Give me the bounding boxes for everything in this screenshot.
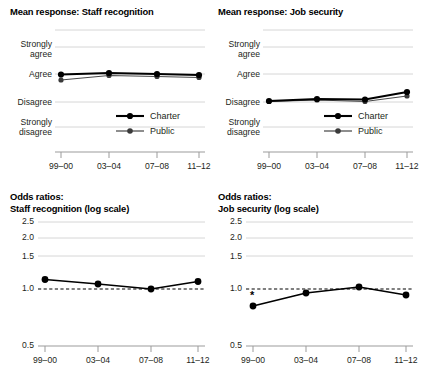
series-line-odds-ratio: [253, 287, 406, 306]
data-point-odds-ratio-0: [250, 303, 257, 310]
y-tick-label-strongly-agree: Strongly agree: [210, 40, 260, 59]
x-tick-label-0: 99–00: [25, 355, 65, 365]
legend-marker-charter: [335, 113, 341, 119]
x-tick-label-1: 03–04: [89, 161, 129, 171]
legend-label-charter: Charter: [358, 111, 388, 121]
y-tick-label-2-5: 2.5: [6, 217, 34, 227]
y-tick-label-2-0: 2.0: [6, 233, 34, 243]
y-tick-label-2-5: 2.5: [214, 217, 242, 227]
data-point-odds-ratio-1: [303, 290, 310, 297]
plot-area: [38, 186, 205, 358]
y-tick-label-1-5: 1.5: [6, 252, 34, 262]
y-tick-label-1-0: 1.0: [6, 284, 34, 294]
y-tick-label-agree: Agree: [2, 70, 52, 80]
x-tick-label-1: 03–04: [286, 355, 326, 365]
y-tick-label-strongly-disagree: Strongly disagree: [210, 118, 260, 137]
x-tick-label-2: 07–08: [131, 355, 171, 365]
x-tick-label-1: 03–04: [297, 161, 337, 171]
y-tick-label-0-5: 0.5: [6, 341, 34, 351]
data-point-charter-1: [106, 70, 112, 76]
y-tick-label-1-5: 1.5: [214, 252, 242, 262]
panel-odds-ratios-staff-recognition: Odds ratios: Staff recognition (log scal…: [0, 186, 208, 372]
legend-marker-public: [335, 128, 341, 134]
data-point-odds-ratio-0: [42, 276, 49, 283]
legend-label-public: Public: [150, 126, 175, 136]
y-tick-label-1-0: 1.0: [214, 284, 242, 294]
x-tick-label-3: 11–12: [387, 161, 423, 171]
data-point-charter-3: [196, 72, 202, 78]
series-line-odds-ratio: [45, 280, 198, 290]
series-line-public: [61, 76, 199, 81]
x-tick-label-1: 03–04: [78, 355, 118, 365]
legend-marker-charter: [127, 113, 133, 119]
x-tick-label-0: 99–00: [233, 355, 273, 365]
x-tick-label-0: 99–00: [41, 161, 81, 171]
legend: [116, 113, 144, 134]
panel-odds-ratios-job-security: Odds ratios: Job security (log scale) 2.…: [208, 186, 417, 372]
data-point-charter-3: [404, 89, 410, 95]
x-tick-label-3: 11–12: [386, 355, 423, 365]
y-tick-label-strongly-agree: Strongly agree: [2, 40, 52, 59]
data-point-charter-1: [314, 96, 320, 102]
x-tick-label-0: 99–00: [249, 161, 289, 171]
x-tick-label-2: 07–08: [137, 161, 177, 171]
series-line-charter: [269, 92, 407, 101]
y-tick-label-agree: Agree: [210, 70, 260, 80]
data-point-odds-ratio-2: [356, 284, 363, 291]
plot-area: [263, 0, 413, 160]
panel-mean-response-job-security: Mean response: Job security Strongly agr…: [208, 0, 417, 186]
significance-asterisk: *: [250, 292, 254, 299]
data-point-public-0: [58, 77, 63, 82]
data-point-odds-ratio-2: [148, 286, 155, 293]
data-point-charter-0: [266, 98, 272, 104]
y-tick-label-strongly-disagree: Strongly disagree: [2, 118, 52, 137]
data-point-charter-2: [362, 96, 368, 102]
data-point-odds-ratio-1: [95, 281, 102, 288]
x-tick-label-2: 07–08: [345, 161, 385, 171]
data-point-charter-2: [154, 71, 160, 77]
panel-mean-response-staff-recognition: Mean response: Staff recognition Strongl…: [0, 0, 208, 186]
legend-label-public: Public: [358, 126, 383, 136]
x-tick-label-2: 07–08: [339, 355, 379, 365]
plot-area: [246, 186, 413, 358]
series-line-charter: [61, 73, 199, 75]
legend: [324, 113, 352, 134]
y-tick-label-disagree: Disagree: [2, 98, 52, 108]
plot-area: [55, 0, 205, 160]
legend-label-charter: Charter: [150, 111, 180, 121]
legend-marker-public: [127, 128, 133, 134]
data-point-odds-ratio-3: [403, 292, 410, 299]
y-tick-label-disagree: Disagree: [210, 98, 260, 108]
data-point-odds-ratio-3: [195, 278, 202, 285]
y-tick-label-2-0: 2.0: [214, 233, 242, 243]
data-point-charter-0: [58, 71, 64, 77]
y-tick-label-0-5: 0.5: [214, 341, 242, 351]
